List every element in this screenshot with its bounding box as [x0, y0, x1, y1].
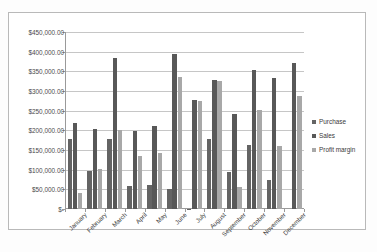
bar-group — [244, 32, 264, 209]
bar-group — [165, 32, 185, 209]
x-axis-label-june: June — [173, 211, 188, 226]
y-axis-tick-label: $50,000.00 — [0, 186, 64, 193]
bar-group — [105, 32, 125, 209]
legend-label: Profit margin — [319, 146, 355, 153]
bar-sales — [252, 70, 256, 209]
legend-item[interactable]: Purchase — [312, 118, 374, 125]
bar-purchase — [68, 139, 72, 209]
bar-groups — [65, 32, 304, 209]
bar-sales — [113, 58, 117, 209]
bar-sales — [192, 100, 196, 209]
y-axis-tick-label: $100,000.00 — [0, 166, 64, 173]
bar-group — [85, 32, 105, 209]
bar-group — [145, 32, 165, 209]
y-axis-tick-label: $250,000.00 — [0, 107, 64, 114]
bar-group — [284, 32, 304, 209]
bar-profit — [217, 81, 221, 209]
x-axis-label-april: April — [134, 211, 148, 225]
bar-group — [224, 32, 244, 209]
bar-profit — [78, 193, 82, 209]
chart-legend: PurchaseSalesProfit margin — [312, 118, 374, 160]
x-axis-label-july: July — [195, 211, 208, 224]
bar-purchase — [167, 189, 171, 209]
bar-group — [204, 32, 224, 209]
bar-group — [65, 32, 85, 209]
legend-label: Sales — [319, 132, 335, 139]
bar-profit — [138, 156, 142, 209]
x-tick-mark — [304, 209, 305, 212]
bar-profit — [178, 77, 182, 209]
bar-purchase — [227, 172, 231, 209]
y-axis-tick-label: $400,000.00 — [0, 48, 64, 55]
bar-purchase — [147, 185, 151, 209]
legend-label: Purchase — [319, 118, 346, 125]
bar-purchase — [247, 145, 251, 210]
chart-frame: $450,000.00$400,000.00$350,000.00$300,00… — [8, 12, 366, 230]
y-axis-tick-label: $150,000.00 — [0, 147, 64, 154]
chart-screenshot: $450,000.00$400,000.00$350,000.00$300,00… — [0, 0, 377, 252]
bar-sales — [212, 80, 216, 209]
bar-group — [264, 32, 284, 209]
y-axis-tick-label: $450,000.00 — [0, 29, 64, 36]
x-axis-category-labels: JanuaryFebruaryMarchAprilMayJuneJulyAugu… — [65, 211, 304, 252]
y-axis-tick-label: $- — [0, 206, 64, 213]
bar-purchase — [87, 171, 91, 209]
legend-item[interactable]: Sales — [312, 132, 374, 139]
bar-purchase — [107, 139, 111, 209]
bar-group — [185, 32, 205, 209]
bar-sales — [152, 126, 156, 209]
x-axis-label-may: May — [154, 211, 167, 224]
bar-profit — [237, 187, 241, 209]
bar-purchase — [127, 186, 131, 209]
bar-sales — [172, 54, 176, 209]
y-axis-tick-label: $350,000.00 — [0, 68, 64, 75]
bar-profit — [277, 146, 281, 209]
bar-profit — [297, 96, 301, 209]
bar-sales — [133, 131, 137, 209]
legend-swatch-icon — [312, 134, 316, 138]
x-axis-label-march: March — [110, 211, 127, 228]
y-axis-tick-label: $200,000.00 — [0, 127, 64, 134]
legend-item[interactable]: Profit margin — [312, 146, 374, 153]
bar-profit — [198, 101, 202, 209]
bar-sales — [272, 78, 276, 209]
bar-group — [125, 32, 145, 209]
bar-sales — [73, 123, 77, 209]
bar-profit — [158, 153, 162, 209]
bar-sales — [292, 63, 296, 209]
bar-sales — [93, 129, 97, 209]
bar-profit — [257, 110, 261, 209]
bar-purchase — [207, 139, 211, 209]
bar-profit — [98, 169, 102, 209]
bar-profit — [118, 130, 122, 209]
plot-area — [65, 32, 304, 209]
legend-swatch-icon — [312, 148, 316, 152]
bar-purchase — [267, 180, 271, 209]
legend-swatch-icon — [312, 120, 316, 124]
y-axis-tick-label: $300,000.00 — [0, 88, 64, 95]
x-axis-label-february: February — [85, 211, 108, 234]
bar-sales — [232, 114, 236, 209]
